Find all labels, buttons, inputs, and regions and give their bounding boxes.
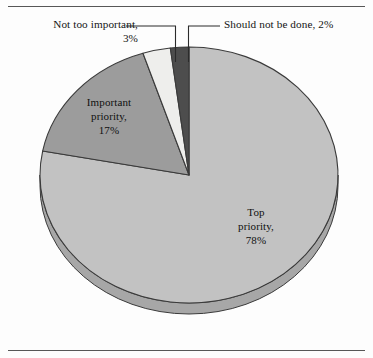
callout-should-not-be-done: Should not be done, 2%	[224, 18, 370, 32]
pie-top-face	[40, 47, 338, 303]
slice-label-important-priority: Important priority, 17%	[62, 96, 156, 137]
pie-chart-canvas	[0, 0, 373, 358]
slice-label-top-priority: Top priority, 78%	[208, 206, 304, 247]
callout-not-too-important: Not too important, 3%	[6, 18, 138, 45]
pie-chart-figure: Not too important, 3% Should not be done…	[0, 0, 373, 358]
pie-group	[40, 47, 338, 314]
